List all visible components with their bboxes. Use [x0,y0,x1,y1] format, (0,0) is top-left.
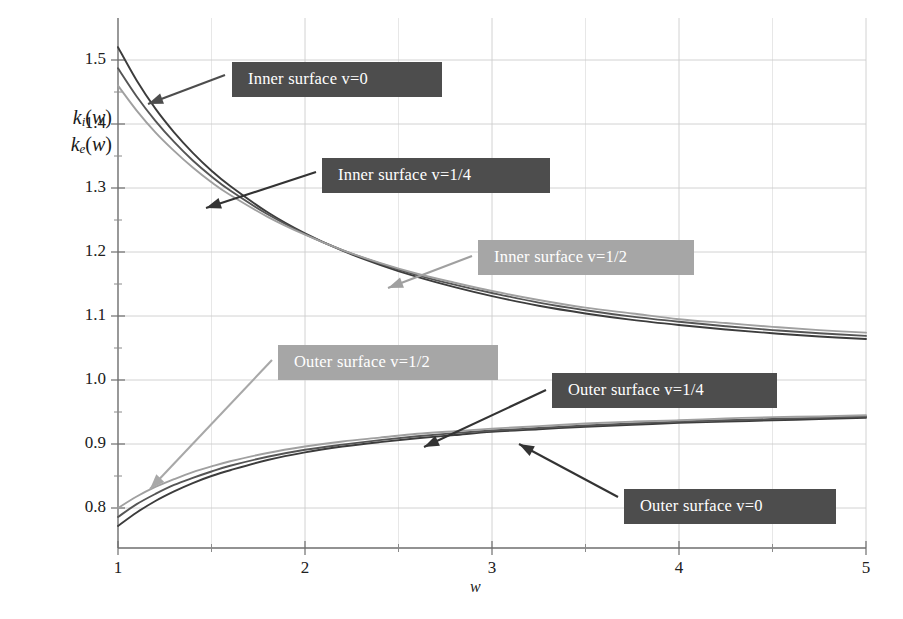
y-tick-label: 0.9 [60,433,106,453]
annotation-label-4: Outer surface v=1/4 [552,373,777,408]
grid-lines [118,18,866,548]
annotation-label-5: Outer surface v=0 [624,489,836,524]
annotation-label-2: Inner surface v=1/2 [478,240,694,275]
annotation-arrows [148,75,618,497]
x-tick-label: 3 [477,558,507,578]
y-tick-label: 1.3 [60,177,106,197]
annotation-arrow-4 [424,390,546,447]
axis-ticks [111,60,866,555]
y-axis-label-line-2: ke(w) [18,131,112,158]
y-tick-label: 1.4 [60,113,106,133]
annotation-label-3: Outer surface v=1/2 [278,345,498,380]
annotation-arrowhead-0 [148,94,164,104]
x-tick-label: 5 [851,558,881,578]
x-tick-label: 1 [103,558,133,578]
x-tick-label: 2 [290,558,320,578]
chart-canvas [0,0,903,619]
y-tick-label: 1.5 [60,49,106,69]
x-tick-label: 4 [664,558,694,578]
x-axis-label: w [470,578,481,596]
annotation-arrow-5 [519,444,618,497]
y-tick-label: 0.8 [60,497,106,517]
y-tick-label: 1.1 [60,305,106,325]
annotation-arrowhead-1 [206,198,222,208]
y-tick-label: 1.0 [60,369,106,389]
annotation-label-1: Inner surface v=1/4 [322,158,550,193]
annotation-arrowhead-5 [519,444,535,456]
annotation-label-0: Inner surface v=0 [232,62,442,97]
y-tick-label: 1.2 [60,241,106,261]
annotation-arrowhead-2 [388,278,404,288]
